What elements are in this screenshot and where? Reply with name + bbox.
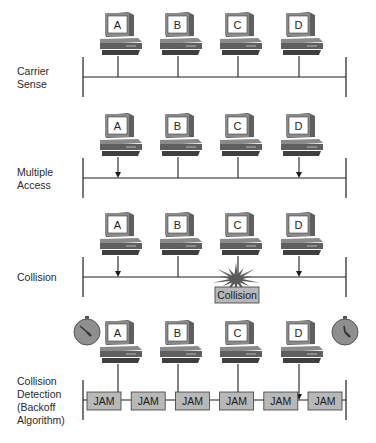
- computer-icon: B: [160, 212, 202, 255]
- transmit-arrow-head: [115, 172, 121, 178]
- transmit-arrow-head: [115, 271, 121, 277]
- keyboard: [162, 151, 200, 156]
- computer-icon: C: [220, 113, 262, 156]
- computer-icon: A: [100, 113, 142, 156]
- computer-icon: A: [100, 320, 142, 363]
- panel-label-line: (Backoff: [17, 401, 55, 413]
- station-label: C: [234, 19, 242, 31]
- panel-label-line: Detection: [17, 388, 62, 400]
- station-label: C: [234, 219, 242, 231]
- panel-label-line: Carrier: [17, 65, 50, 77]
- panel-carrier-sense: CarrierSenseABCD: [17, 12, 346, 97]
- keyboard: [222, 50, 260, 55]
- station-label: A: [114, 19, 122, 31]
- keyboard: [222, 151, 260, 156]
- station-label: B: [174, 120, 181, 132]
- panel-label-line: Collision: [17, 375, 57, 387]
- computer-icon: C: [220, 320, 262, 363]
- computer-icon: A: [100, 12, 142, 55]
- computer-icon: D: [281, 12, 323, 55]
- keyboard: [162, 358, 200, 363]
- computer-icon: B: [160, 113, 202, 156]
- jam-label: JAM: [270, 395, 291, 407]
- jam-label: JAM: [94, 395, 115, 407]
- transmit-arrow-head: [296, 271, 302, 277]
- timer-hand: [344, 326, 345, 332]
- keyboard: [162, 250, 200, 255]
- station-label: B: [174, 219, 181, 231]
- keyboard: [222, 358, 260, 363]
- keyboard: [102, 358, 140, 363]
- station-label: B: [174, 19, 181, 31]
- backoff-timer-icon: [74, 316, 100, 345]
- jam-label: JAM: [138, 395, 159, 407]
- jam-label: JAM: [182, 395, 203, 407]
- panel-label: CollisionDetection(BackoffAlgorithm): [17, 375, 65, 426]
- panel-label: CarrierSense: [17, 65, 50, 90]
- backoff-timer-icon: [332, 316, 358, 345]
- panel-label: Collision: [17, 271, 57, 283]
- station-label: D: [295, 219, 303, 231]
- panel-collision-detection: CollisionDetection(BackoffAlgorithm)ABCD…: [17, 316, 358, 426]
- collision-label: Collision: [217, 289, 257, 301]
- panel-multiple-access: MultipleAccessABCD: [17, 113, 346, 198]
- panel-label-line: Access: [17, 179, 51, 191]
- station-label: A: [114, 327, 122, 339]
- keyboard: [283, 50, 321, 55]
- computer-icon: D: [281, 212, 323, 255]
- panel-label-line: Collision: [17, 271, 57, 283]
- station-label: D: [295, 19, 303, 31]
- panel-label-line: Multiple: [17, 166, 53, 178]
- station-label: C: [234, 327, 242, 339]
- computer-icon: D: [281, 113, 323, 156]
- transmit-arrow-head: [296, 172, 302, 178]
- computer-icon: C: [220, 12, 262, 55]
- panel-label-line: Sense: [17, 78, 47, 90]
- jam-label: JAM: [315, 395, 336, 407]
- keyboard: [102, 50, 140, 55]
- station-label: A: [114, 120, 122, 132]
- csma-cd-diagram: CarrierSenseABCDMultipleAccessABCDCollis…: [0, 0, 376, 443]
- computer-icon: B: [160, 12, 202, 55]
- computer-icon: C: [220, 212, 262, 255]
- computer-icon: A: [100, 212, 142, 255]
- keyboard: [283, 151, 321, 156]
- keyboard: [283, 358, 321, 363]
- panel-label: MultipleAccess: [17, 166, 53, 191]
- computer-icon: D: [281, 320, 323, 363]
- computer-icon: B: [160, 320, 202, 363]
- keyboard: [102, 151, 140, 156]
- station-label: C: [234, 120, 242, 132]
- keyboard: [102, 250, 140, 255]
- keyboard: [283, 250, 321, 255]
- panel-collision: CollisionABCDCollision: [17, 212, 346, 303]
- panel-label-line: Algorithm): [17, 414, 65, 426]
- station-label: D: [295, 327, 303, 339]
- jam-label: JAM: [226, 395, 247, 407]
- keyboard: [222, 250, 260, 255]
- station-label: A: [114, 219, 122, 231]
- station-label: D: [295, 120, 303, 132]
- keyboard: [162, 50, 200, 55]
- station-label: B: [174, 327, 181, 339]
